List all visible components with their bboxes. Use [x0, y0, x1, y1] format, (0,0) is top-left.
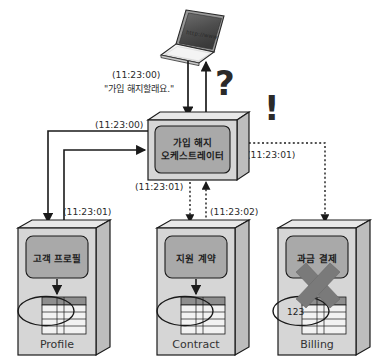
- laptop-icon: http://www: [161, 10, 224, 66]
- orchestrator-label-line2: 오케스트레이터: [161, 150, 224, 161]
- service-panel-label-billing: 과금 결제: [297, 253, 336, 264]
- db-label-billing: Billing: [300, 338, 334, 351]
- label-request-text: "가입 해지할래요.": [104, 83, 174, 94]
- orchestrator-label-line1: 가입 해지: [173, 137, 212, 148]
- service-node-profile[interactable]: 고객 프로필 Profile: [18, 220, 110, 355]
- db-table-profile: [42, 297, 86, 334]
- db-label-profile: Profile: [40, 338, 74, 351]
- service-node-contract[interactable]: 지원 계약 Contract: [157, 220, 249, 355]
- db-table-contract: [181, 297, 225, 334]
- diagram-canvas: http://www (11:23:00) "가입 해지할래요." ? ! (1…: [0, 0, 387, 364]
- db-label-contract: Contract: [172, 338, 220, 351]
- question-mark: ?: [215, 63, 235, 103]
- service-panel-label-profile: 고객 프로필: [33, 253, 81, 264]
- orchestration-diagram: http://www (11:23:00) "가입 해지할래요." ? ! (1…: [0, 0, 387, 364]
- label-request-time: (11:23:00): [112, 69, 160, 80]
- orchestrator-node[interactable]: 가입 해지 오케스트레이터: [148, 112, 249, 180]
- label-profile-call-time: (11:23:00): [95, 119, 143, 130]
- label-profile-reply-time: (11:23:01): [63, 206, 111, 217]
- exclamation-mark: !: [264, 88, 280, 128]
- service-panel-label-contract: 지원 계약: [176, 253, 215, 264]
- label-contract-reply-time: (11:23:02): [210, 206, 258, 217]
- service-node-billing[interactable]: 과금 결제 123 Billing: [273, 220, 370, 355]
- label-billing-call-time: (11:23:01): [247, 149, 295, 160]
- db-ellipse-text-billing: 123: [287, 307, 304, 317]
- label-contract-call-time: (11:23:01): [135, 181, 183, 192]
